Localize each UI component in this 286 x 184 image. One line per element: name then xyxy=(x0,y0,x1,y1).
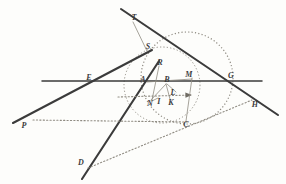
point-label-d: D xyxy=(78,159,84,167)
point-label-m: M xyxy=(185,71,192,79)
line-D-to-R xyxy=(82,61,159,179)
point-label-h: H xyxy=(252,101,258,109)
segment-M-to-C xyxy=(186,78,192,121)
point-label-k: K xyxy=(168,99,174,107)
figure-canvas xyxy=(0,0,286,184)
point-label-b: B xyxy=(164,76,170,84)
point-label-g: G xyxy=(228,72,234,80)
point-label-n: N xyxy=(147,100,153,108)
point-label-s: S xyxy=(146,43,151,51)
point-label-t: T xyxy=(131,14,136,22)
lines-layer xyxy=(13,9,278,179)
geometry-figure: TSREABMGLNIKHPCD xyxy=(0,0,286,184)
point-label-c: C xyxy=(183,121,189,129)
point-label-a: A xyxy=(140,76,146,84)
line-P-to-S xyxy=(13,50,152,123)
point-label-p: P xyxy=(21,122,26,130)
point-label-i: I xyxy=(157,98,160,106)
point-label-l: L xyxy=(170,89,175,97)
point-label-e: E xyxy=(86,74,92,82)
point-label-r: R xyxy=(157,59,163,67)
line-P-to-C-dotted xyxy=(33,120,188,122)
